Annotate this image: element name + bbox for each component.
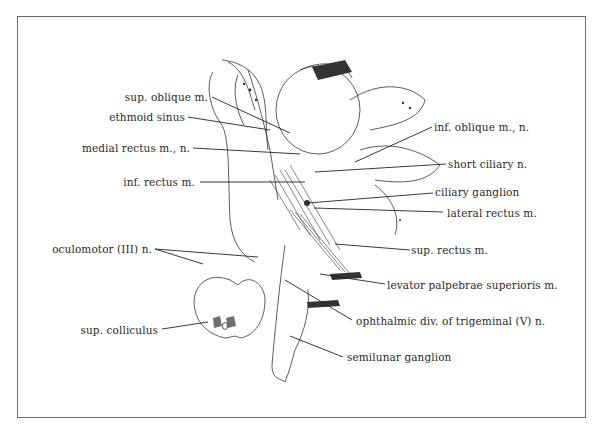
midbrain-outline [194, 277, 265, 338]
label-semilunar: semilunar ganglion [347, 351, 451, 363]
leader-sup-oblique [212, 97, 290, 133]
leader-lateral-rectus [314, 208, 443, 212]
leader-medial-rectus [193, 148, 300, 154]
label-levator: levator palpebrae superioris m. [387, 279, 558, 291]
trigeminal-outline [272, 245, 308, 382]
label-lateral-rectus: lateral rectus m. [447, 207, 537, 219]
orbital-wall-outline [209, 72, 255, 262]
label-sup-colliculus: sup. colliculus [60, 324, 158, 336]
label-medial-rectus: medial rectus m., n. [40, 142, 190, 154]
label-ophthalmic: ophthalmic div. of trigeminal (V) n. [356, 315, 545, 327]
leader-semilunar [290, 336, 343, 357]
leader-ciliary-ganglion [308, 193, 433, 203]
leader-ethmoid-sinus [188, 117, 270, 130]
leader-ophthalmic [285, 280, 352, 320]
label-short-ciliary: short ciliary n. [448, 158, 527, 170]
label-ciliary-ganglion: ciliary ganglion [435, 186, 519, 198]
leader-sup-colliculus [162, 322, 208, 329]
leader-short-ciliary [315, 164, 446, 172]
label-oculomotor: oculomotor (III) n. [40, 243, 152, 255]
label-inf-oblique: inf. oblique m., n. [434, 121, 529, 133]
label-sup-oblique: sup. oblique m. [100, 91, 208, 103]
label-inf-rectus: inf. rectus m. [90, 176, 195, 188]
leader-inf-oblique [355, 127, 432, 162]
label-ethmoid-sinus: ethmoid sinus [90, 111, 185, 123]
leader-sup-rectus [335, 244, 410, 250]
label-sup-rectus: sup. rectus m. [411, 244, 488, 256]
